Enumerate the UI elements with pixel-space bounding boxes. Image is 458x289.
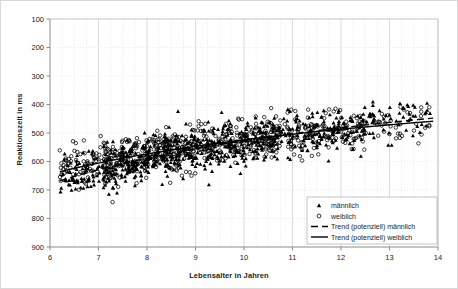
y-tick-label: 500 — [31, 129, 44, 138]
legend-label: Trend (potenziell) weiblich — [331, 234, 412, 242]
y-tick-label: 700 — [31, 186, 44, 195]
x-tick-label: 9 — [193, 253, 197, 262]
legend-label: weiblich — [330, 213, 356, 220]
x-tick-label: 7 — [96, 253, 100, 262]
y-tick-label: 300 — [31, 72, 44, 81]
x-tick-label: 11 — [289, 253, 297, 262]
x-tick-label: 12 — [337, 253, 345, 262]
chart-legend: männlichweiblichTrend (potenziell) männl… — [307, 197, 437, 244]
legend-label: Trend (potenziell) männlich — [331, 223, 415, 231]
y-tick-label: 400 — [31, 100, 44, 109]
y-tick-label: 800 — [31, 214, 44, 223]
x-tick-label: 8 — [145, 253, 149, 262]
x-tick-label: 6 — [48, 253, 52, 262]
scatter-plot: 67891011121314 1002003004005006007008009… — [1, 1, 458, 289]
x-tick-label: 10 — [240, 253, 248, 262]
y-tick-label: 600 — [31, 157, 44, 166]
legend-label: männlich — [331, 202, 359, 209]
y-tick-label: 100 — [31, 15, 44, 24]
x-tick-label: 14 — [434, 253, 442, 262]
x-axis-title: Lebensalter in Jahren — [1, 271, 457, 280]
y-tick-labels: 100200300400500600700800900 — [31, 15, 44, 252]
chart-figure: 67891011121314 1002003004005006007008009… — [0, 0, 458, 289]
y-tick-label: 200 — [31, 43, 44, 52]
x-tick-label: 13 — [385, 253, 393, 262]
x-tick-labels: 67891011121314 — [48, 253, 442, 262]
y-tick-label: 900 — [31, 243, 44, 252]
data-points — [58, 100, 432, 204]
y-axis-title: Reaktionszeit in ms — [15, 60, 24, 200]
